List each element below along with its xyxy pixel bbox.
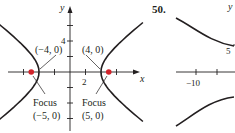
x-tick-label: 2 bbox=[82, 77, 87, 87]
focus-left-label: (−5, 0) bbox=[33, 110, 60, 122]
left-figure: x y 2 4 (−4, 0) (4, 0) Focus (−5, 0) Foc… bbox=[0, 2, 145, 131]
right-upper-branch bbox=[176, 18, 234, 46]
focus-left-title: Focus bbox=[33, 97, 57, 108]
x-axis-label: x bbox=[139, 73, 145, 84]
right-y-axis-label: y bbox=[227, 1, 233, 12]
y-axis-arrow-icon bbox=[68, 6, 73, 13]
right-y-tick-label: 5 bbox=[226, 46, 231, 56]
right-figure: 50. y −10 5 bbox=[152, 1, 235, 126]
focus-left-point bbox=[28, 69, 34, 75]
x-axis-arrow-icon bbox=[133, 70, 140, 75]
vertex-left-label: (−4, 0) bbox=[35, 44, 62, 56]
y-axis-label: y bbox=[59, 2, 65, 13]
vertex-right-leader bbox=[86, 55, 100, 69]
focus-right-label: (5, 0) bbox=[82, 110, 104, 122]
vertex-right-label: (4, 0) bbox=[82, 44, 104, 56]
vertex-left-leader bbox=[40, 55, 56, 69]
problem-number: 50. bbox=[152, 3, 166, 15]
right-x-tick-label: −10 bbox=[186, 78, 201, 88]
focus-right-title: Focus bbox=[82, 97, 106, 108]
figure-canvas: x y 2 4 (−4, 0) (4, 0) Focus (−5, 0) Foc… bbox=[0, 0, 235, 133]
focus-right-point bbox=[106, 69, 112, 75]
right-lower-branch bbox=[176, 97, 234, 126]
